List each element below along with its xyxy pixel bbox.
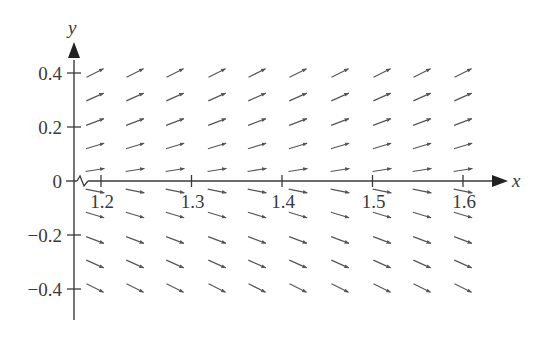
slope-arrow — [248, 143, 266, 149]
slope-arrow — [86, 119, 104, 126]
x-tick-label: 1.6 — [452, 191, 476, 212]
slope-arrow — [248, 212, 266, 218]
slope-arrow — [454, 169, 473, 172]
slope-arrow — [332, 69, 349, 78]
slope-arrow — [248, 260, 265, 268]
slope-arrow — [413, 237, 431, 244]
slope-arrow — [373, 212, 391, 218]
slope-arrow — [331, 237, 349, 244]
slope-arrow — [331, 93, 348, 101]
slope-arrow — [86, 212, 104, 218]
slope-arrow — [455, 284, 472, 293]
slope-field-chart: y x 1.21.31.41.51.6 0.40.20−0.2−0.4 — [0, 0, 540, 344]
slope-arrow — [414, 284, 431, 293]
slope-arrow — [374, 284, 391, 293]
x-tick-label: 1.3 — [181, 191, 205, 212]
x-tick-label: 1.5 — [362, 191, 386, 212]
slope-arrow — [289, 143, 307, 149]
slope-arrow — [208, 169, 227, 172]
slope-arrow — [289, 260, 306, 268]
slope-arrow — [331, 169, 350, 172]
slope-arrow — [166, 169, 185, 172]
slope-arrow — [455, 69, 472, 78]
slope-arrow — [87, 284, 104, 293]
slope-arrow — [167, 284, 184, 293]
y-tick-label: 0 — [53, 171, 63, 192]
slope-arrow — [331, 143, 349, 149]
slope-arrow — [127, 284, 144, 293]
slope-arrow — [166, 212, 184, 218]
slope-arrow — [289, 119, 307, 126]
x-axis-label: x — [511, 170, 521, 191]
slope-arrow — [208, 119, 226, 126]
x-tick-label: 1.2 — [90, 191, 114, 212]
slope-arrow — [167, 69, 184, 78]
slope-arrow — [248, 189, 267, 193]
slope-arrow — [208, 237, 226, 244]
slope-arrow — [413, 93, 430, 101]
slope-arrow — [454, 237, 472, 244]
slope-arrow — [166, 119, 184, 126]
slope-arrow — [86, 93, 103, 101]
slope-arrow — [126, 237, 144, 244]
y-axis-label: y — [66, 17, 77, 38]
slope-arrow — [208, 189, 227, 193]
slope-arrow — [373, 237, 391, 244]
slope-arrow — [208, 212, 226, 218]
slope-arrow — [454, 212, 472, 218]
slope-arrow — [413, 260, 430, 268]
slope-arrow — [208, 260, 225, 268]
x-axis-arrow-icon — [492, 175, 508, 187]
slope-arrow — [331, 119, 349, 126]
slope-arrow — [331, 260, 348, 268]
y-tick-label: 0.2 — [38, 117, 62, 138]
slope-arrow — [87, 69, 104, 78]
slope-arrow — [166, 237, 184, 244]
slope-arrow — [86, 260, 103, 268]
axis-break-icon — [77, 176, 88, 186]
slope-arrow — [373, 260, 390, 268]
slope-arrow — [126, 212, 144, 218]
slope-arrow — [413, 143, 431, 149]
slope-arrow — [289, 237, 307, 244]
slope-arrow — [248, 237, 266, 244]
slope-arrow — [413, 212, 431, 218]
slope-arrow — [290, 69, 307, 78]
slope-arrow — [289, 93, 306, 101]
slope-arrow — [414, 69, 431, 78]
y-axis-arrow-icon — [68, 42, 80, 58]
slope-arrow — [454, 93, 471, 101]
slope-arrow — [454, 260, 471, 268]
slope-arrow — [374, 69, 391, 78]
slope-arrow — [413, 189, 432, 193]
slope-arrow — [373, 119, 391, 126]
slope-arrow — [373, 93, 390, 101]
slope-arrow — [248, 169, 267, 172]
slope-arrow — [249, 284, 266, 293]
slope-arrow — [248, 93, 265, 101]
slope-arrow — [166, 143, 184, 149]
y-tick-label: −0.2 — [28, 225, 62, 246]
slope-arrow — [166, 260, 183, 268]
slope-arrow — [209, 284, 226, 293]
slope-arrow — [126, 119, 144, 126]
slope-arrow — [290, 284, 307, 293]
slope-arrow — [331, 212, 349, 218]
slope-arrow — [289, 212, 307, 218]
slope-arrow — [413, 119, 431, 126]
slope-arrow — [86, 237, 104, 244]
slope-arrow — [248, 119, 266, 126]
slope-arrow — [249, 69, 266, 78]
slope-arrow — [332, 284, 349, 293]
y-tick-label: 0.4 — [38, 63, 62, 84]
y-tick-label: −0.4 — [28, 279, 63, 300]
slope-arrow — [289, 169, 308, 172]
slope-arrow — [126, 260, 143, 268]
slope-arrow — [454, 143, 472, 149]
slope-arrow — [208, 93, 225, 101]
slope-arrow — [126, 93, 143, 101]
slope-arrow — [126, 169, 145, 172]
slope-arrow — [126, 143, 144, 149]
slope-arrow — [413, 169, 432, 172]
slope-arrow — [208, 143, 226, 149]
